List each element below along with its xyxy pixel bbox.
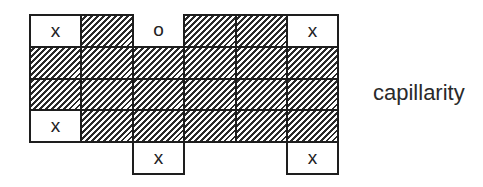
x-mark: x [51,115,61,137]
marked-cell: x [132,141,185,175]
hatched-cell [183,78,237,111]
hatched-cell [183,109,237,143]
x-mark: x [51,20,61,42]
hatched-cell [286,46,339,80]
x-mark: x [308,147,318,169]
hatched-cell [235,14,288,48]
hatched-cell [235,109,288,143]
hatched-cell [286,78,339,111]
marked-cell: x [286,141,339,175]
marked-cell: x [29,109,82,143]
hatched-cell [235,46,288,80]
hatched-cell [80,78,134,111]
hatched-cell [29,78,82,111]
hatched-cell [286,109,339,143]
hatched-cell [80,109,134,143]
marked-cell: x [286,14,339,48]
marked-cell: x [29,14,82,48]
hatched-cell [132,78,185,111]
capillarity-label: capillarity [373,80,465,106]
x-mark: x [154,147,164,169]
hatched-cell [183,14,237,48]
x-mark: x [308,20,318,42]
capillarity-grid-diagram: xoxxxx capillarity [0,0,483,187]
hatched-cell [183,46,237,80]
hatched-cell [80,14,134,48]
hatched-cell [132,109,185,143]
o-mark: o [153,19,164,41]
hatched-cell [235,78,288,111]
hatched-cell [132,46,185,80]
hatched-cell [29,46,82,80]
hatched-cell [80,46,134,80]
open-cell: o [132,14,185,48]
